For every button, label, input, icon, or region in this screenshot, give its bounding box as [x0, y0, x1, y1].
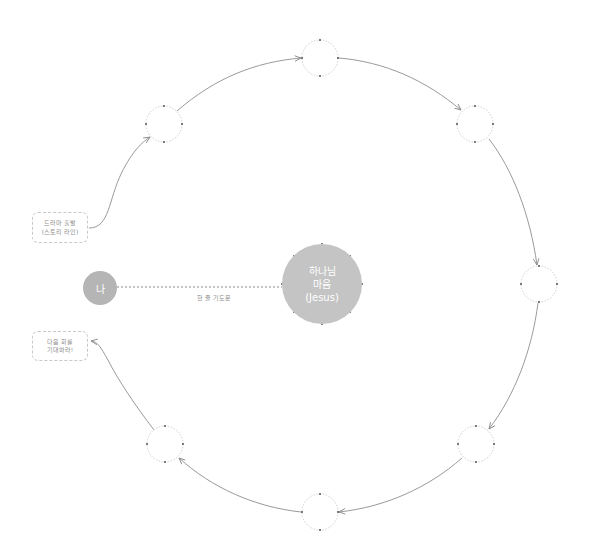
end-label-line1: 다음 회를: [47, 338, 73, 346]
me-node-label: 나: [96, 281, 105, 296]
center-node-line3: (Jesus): [305, 291, 339, 304]
arrow-start-to-top-left: [89, 137, 150, 228]
arrow-bottom-to-bottom-left: [179, 458, 301, 512]
me-node[interactable]: 나: [83, 271, 117, 305]
arrow-bottom-left-to-end: [91, 341, 154, 430]
start-label-box[interactable]: 드라마 출발 (스토리 라인): [32, 212, 88, 243]
cycle-node-bottom-left[interactable]: [146, 425, 184, 463]
cycle-node-top[interactable]: [301, 39, 339, 77]
center-node[interactable]: 하나님 마음 (Jesus): [282, 244, 362, 324]
cycle-node-right[interactable]: [520, 265, 558, 303]
end-label-line2: 기대하라!: [47, 346, 73, 354]
prayer-connector-label: 한 줄 기도문: [197, 293, 231, 302]
arrow-bottom-right-to-bottom: [339, 458, 462, 512]
center-node-line2: 마음: [313, 278, 331, 291]
arrow-top-to-top-right: [339, 58, 461, 110]
start-label-line1: 드라마 출발: [44, 219, 76, 227]
arrow-top-right-to-right: [489, 139, 537, 265]
cycle-node-top-right[interactable]: [456, 105, 494, 143]
cycle-node-bottom[interactable]: [301, 493, 339, 531]
start-label-line2: (스토리 라인): [42, 228, 79, 236]
center-node-line1: 하나님: [309, 265, 336, 278]
cycle-node-bottom-right[interactable]: [457, 425, 495, 463]
arrow-top-left-to-top: [177, 58, 301, 111]
arrow-right-to-bottom-right: [489, 303, 538, 429]
end-label-box[interactable]: 다음 회를 기대하라!: [32, 331, 88, 361]
